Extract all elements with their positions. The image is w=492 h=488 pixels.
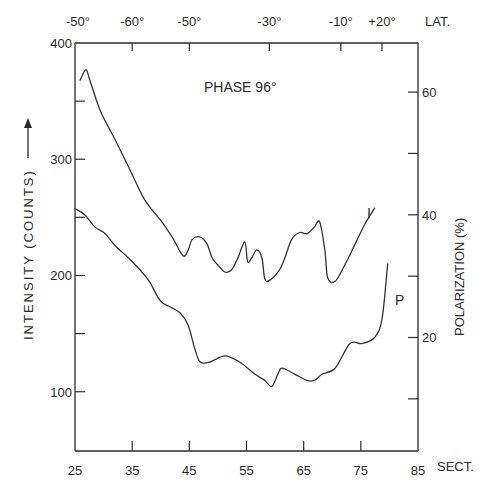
y-axis-arrow-icon [24,118,32,128]
y-axis-label-group: INTENSITY (COUNTS) [21,118,36,340]
x-tick-label: 75 [354,463,368,478]
y-axis-label: INTENSITY (COUNTS) [21,169,36,340]
series-line-I [80,70,375,283]
top-tick-label: -30° [257,14,281,29]
top-corner-label: -50° [66,14,90,29]
top-tick-label: +20° [368,14,395,29]
top-tick-label: -60° [120,14,144,29]
x-tick-label: 65 [296,463,310,478]
y-tick-label: 100 [50,385,72,400]
y-right-axis-label: POLARIZATION (%) [452,218,467,336]
x-axis-label: SECT. [437,459,474,474]
x-tick-label: 85 [411,463,425,478]
y-tick-label: 400 [50,36,72,51]
y-right-tick-label: 40 [422,208,436,223]
y-tick-label: 200 [50,268,72,283]
x-tick-label: 25 [68,463,82,478]
top-tick-label: -50° [177,14,201,29]
chart-title: PHASE 96° [204,79,277,95]
x-tick-label: 55 [239,463,253,478]
series-label-I: I [367,205,371,221]
series-label-P: P [395,292,404,308]
y-right-tick-label: 20 [422,330,436,345]
y-right-axis-label-group: POLARIZATION (%) [452,218,467,336]
x-tick-label: 45 [182,463,196,478]
y-tick-label: 300 [50,152,72,167]
top-tick-label: -10° [329,14,353,29]
top-axis-label: LAT. [425,14,450,29]
x-tick-label: 35 [125,463,139,478]
y-right-tick-label: 60 [422,85,436,100]
series-line-P [75,209,388,387]
chart: 25354555657585-60°-50°-30°-10°+20°100200… [0,0,492,488]
